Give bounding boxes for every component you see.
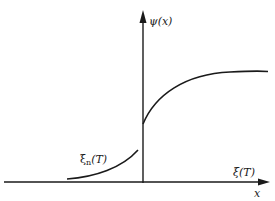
- left-curve-label: ξn(T): [80, 154, 107, 165]
- y-axis-arrowhead-icon: [140, 10, 147, 23]
- left-curve-label-arg: (T): [91, 153, 107, 166]
- right-curve: [143, 71, 268, 124]
- y-axis-label: ψ(x): [149, 16, 172, 27]
- x-axis-upper-label: ξ(T): [233, 167, 255, 178]
- diagram: ψ(x) ξn(T) ξ(T) x: [0, 0, 275, 201]
- left-curve-label-sub: n: [86, 158, 91, 167]
- x-axis-arrowhead-icon: [258, 179, 270, 186]
- x-axis-lower-label: x: [254, 188, 260, 199]
